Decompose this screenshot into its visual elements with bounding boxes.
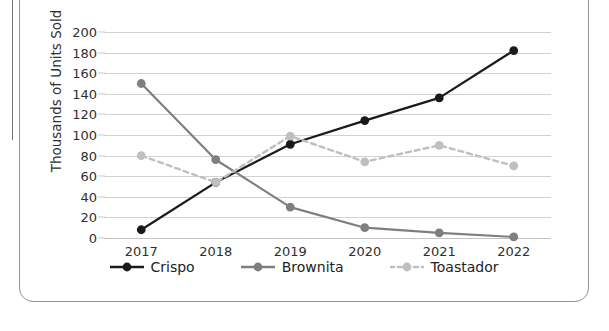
y-tick-label: 80 bbox=[80, 148, 97, 163]
data-point bbox=[211, 178, 220, 187]
series-layer bbox=[104, 32, 551, 238]
series-brownita bbox=[137, 79, 518, 241]
data-point bbox=[360, 157, 369, 166]
y-tick-label: 140 bbox=[72, 86, 97, 101]
y-tick-label: 100 bbox=[72, 128, 97, 143]
legend-label: Crispo bbox=[151, 259, 195, 275]
data-point bbox=[435, 94, 444, 103]
series-line bbox=[141, 84, 514, 237]
legend-item-crispo[interactable]: Crispo bbox=[110, 259, 195, 275]
data-point bbox=[435, 141, 444, 150]
legend-label: Toastador bbox=[431, 259, 499, 275]
y-tick-label: 0 bbox=[89, 231, 97, 246]
data-point bbox=[360, 116, 369, 125]
series-toastador bbox=[137, 132, 518, 187]
legend-item-brownita[interactable]: Brownita bbox=[241, 259, 344, 275]
data-point bbox=[137, 79, 146, 88]
chart-legend: CrispoBrownitaToastador bbox=[20, 252, 588, 282]
chart-card: Thousands of Units Sold 2001801601401201… bbox=[19, 0, 589, 302]
data-point bbox=[509, 46, 518, 55]
y-tick-label: 160 bbox=[72, 66, 97, 81]
data-point bbox=[286, 132, 295, 141]
data-point bbox=[211, 155, 220, 164]
data-point bbox=[137, 225, 146, 234]
y-tick-label: 120 bbox=[72, 107, 97, 122]
y-tick-label: 20 bbox=[80, 210, 97, 225]
series-crispo bbox=[137, 46, 518, 234]
legend-label: Brownita bbox=[282, 259, 344, 275]
y-tick-label: 40 bbox=[80, 189, 97, 204]
data-point bbox=[286, 140, 295, 149]
legend-swatch-icon bbox=[390, 261, 424, 273]
data-point bbox=[435, 228, 444, 237]
data-point bbox=[360, 223, 369, 232]
y-axis-title: Thousands of Units Sold bbox=[48, 0, 64, 201]
data-point bbox=[509, 162, 518, 171]
y-tick-label: 60 bbox=[80, 169, 97, 184]
series-line bbox=[141, 136, 514, 182]
data-point bbox=[286, 203, 295, 212]
plot-area: 200180160140120100806040200 201720182019… bbox=[104, 32, 551, 238]
legend-swatch-icon bbox=[110, 261, 144, 273]
y-tick-label: 180 bbox=[72, 45, 97, 60]
legend-swatch-icon bbox=[241, 261, 275, 273]
legend-item-toastador[interactable]: Toastador bbox=[390, 259, 499, 275]
data-point bbox=[137, 151, 146, 160]
y-tick-label: 200 bbox=[72, 25, 97, 40]
page-margin-rule bbox=[12, 0, 13, 140]
